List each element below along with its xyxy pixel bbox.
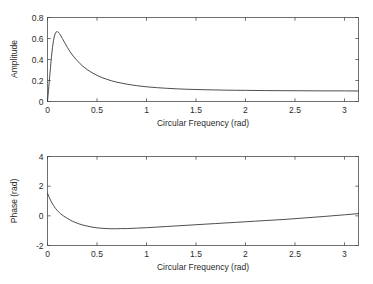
tick-label: 0.2 — [32, 76, 44, 86]
tick-label: 0.4 — [32, 55, 44, 65]
amplitude-curve — [48, 32, 359, 102]
tick-label: 2.5 — [289, 105, 301, 115]
tick-label: 3 — [342, 105, 347, 115]
tick-label: 2 — [243, 249, 248, 259]
tick-label: 0 — [45, 105, 50, 115]
tick-label: 0 — [45, 249, 50, 259]
tick-label: 2 — [243, 105, 248, 115]
phase-axes-box — [48, 157, 359, 246]
phase-plot-svg: 00.511.522.53 -2024 Circular Frequency (… — [0, 142, 373, 284]
tick-label: 0.5 — [91, 105, 103, 115]
tick-label: 0 — [39, 97, 44, 107]
tick-label: 2.5 — [289, 249, 301, 259]
tick-label: -2 — [36, 241, 44, 251]
figure-container: 00.511.522.53 00.20.40.60.8 Circular Fre… — [0, 0, 373, 284]
amplitude-x-axis-label: Circular Frequency (rad) — [157, 118, 249, 128]
phase-x-axis-label: Circular Frequency (rad) — [157, 262, 249, 272]
amplitude-x-tick-labels: 00.511.522.53 — [45, 105, 347, 115]
phase-y-tick-labels: -2024 — [36, 152, 44, 251]
phase-tick-marks — [48, 157, 359, 246]
tick-label: 2 — [39, 181, 44, 191]
amplitude-plot-svg: 00.511.522.53 00.20.40.60.8 Circular Fre… — [0, 0, 373, 142]
tick-label: 0.6 — [32, 34, 44, 44]
phase-panel: 00.511.522.53 -2024 Circular Frequency (… — [0, 142, 373, 284]
tick-label: 1 — [144, 249, 149, 259]
tick-label: 0.8 — [32, 13, 44, 23]
amplitude-panel: 00.511.522.53 00.20.40.60.8 Circular Fre… — [0, 0, 373, 142]
amplitude-tick-marks — [48, 18, 359, 102]
tick-label: 3 — [342, 249, 347, 259]
amplitude-y-tick-labels: 00.20.40.60.8 — [32, 13, 44, 107]
phase-curve — [48, 193, 359, 228]
amplitude-axes-box — [48, 18, 359, 102]
tick-label: 1.5 — [190, 249, 202, 259]
tick-label: 1 — [144, 105, 149, 115]
amplitude-y-axis-label: Amplitude — [9, 40, 19, 78]
phase-y-axis-label: Phase (rad) — [9, 179, 19, 224]
phase-x-tick-labels: 00.511.522.53 — [45, 249, 347, 259]
tick-label: 0.5 — [91, 249, 103, 259]
tick-label: 4 — [39, 152, 44, 162]
tick-label: 0 — [39, 211, 44, 221]
tick-label: 1.5 — [190, 105, 202, 115]
